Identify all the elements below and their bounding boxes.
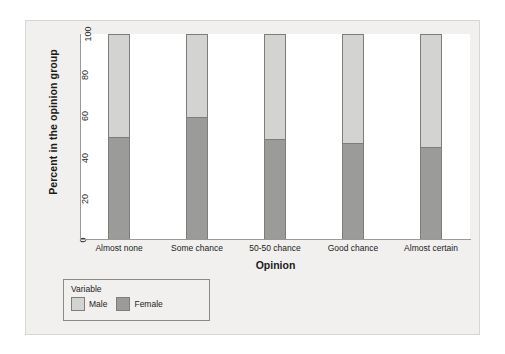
y-axis-title: Percent in the opinion group <box>47 32 59 212</box>
legend-label: Male <box>89 299 107 309</box>
legend-item-female[interactable]: Female <box>116 297 162 311</box>
bar-segment-female[interactable] <box>187 117 207 239</box>
bar-segment-male[interactable] <box>421 35 441 147</box>
x-axis-tick-label: 50-50 chance <box>249 243 301 253</box>
bar-segment-female[interactable] <box>343 143 363 239</box>
y-axis-tick-label: 60 <box>80 111 90 121</box>
x-axis-tick-label: Almost none <box>95 243 142 253</box>
bar-segment-female[interactable] <box>421 147 441 239</box>
y-axis-tick-label: 20 <box>80 194 90 204</box>
y-axis-line <box>80 34 81 240</box>
x-axis-tick-label: Good chance <box>328 243 379 253</box>
chart-legend: Variable MaleFemale <box>63 279 210 321</box>
x-axis-line <box>80 239 471 240</box>
legend-swatch-male <box>71 297 85 311</box>
y-axis-tick-label: 80 <box>80 70 90 80</box>
bar-segment-female[interactable] <box>265 139 285 239</box>
x-axis-tick-label: Almost certain <box>404 243 458 253</box>
legend-entries: MaleFemale <box>71 297 202 311</box>
legend-swatch-female <box>116 297 130 311</box>
bar-segment-male[interactable] <box>187 35 207 117</box>
stacked-bar[interactable] <box>342 34 364 240</box>
bar-group[interactable] <box>264 34 286 240</box>
bar-segment-male[interactable] <box>109 35 129 137</box>
figure-panel: Percent in the opinion group 02040608010… <box>25 20 480 335</box>
plot-area: 020406080100 <box>80 34 470 240</box>
bar-segment-female[interactable] <box>109 137 129 239</box>
stacked-bar[interactable] <box>420 34 442 240</box>
legend-item-male[interactable]: Male <box>71 297 107 311</box>
stacked-bar[interactable] <box>186 34 208 240</box>
x-axis-title: Opinion <box>80 259 471 271</box>
bar-segment-male[interactable] <box>265 35 285 139</box>
y-axis-tick-label: 100 <box>83 26 93 41</box>
legend-label: Female <box>134 299 162 309</box>
x-axis-tick-label: Some chance <box>171 243 223 253</box>
bar-group[interactable] <box>186 34 208 240</box>
bar-group[interactable] <box>108 34 130 240</box>
legend-title: Variable <box>71 284 202 294</box>
y-axis-tick-label: 40 <box>80 153 90 163</box>
stacked-bar[interactable] <box>108 34 130 240</box>
bar-segment-male[interactable] <box>343 35 363 143</box>
bar-group[interactable] <box>420 34 442 240</box>
stacked-bar[interactable] <box>264 34 286 240</box>
bar-group[interactable] <box>342 34 364 240</box>
